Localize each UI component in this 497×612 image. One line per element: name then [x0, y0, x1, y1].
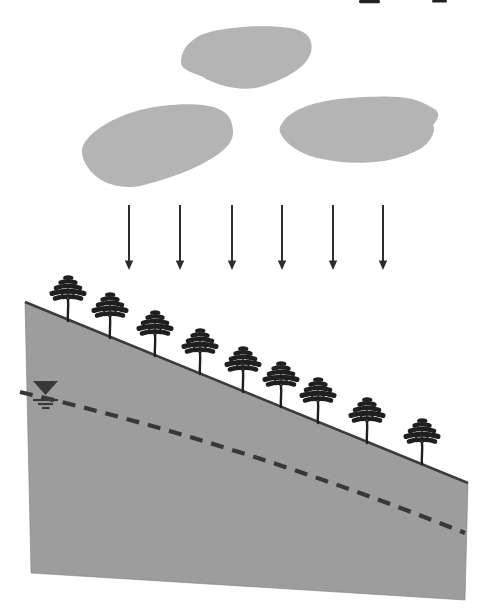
- rain-arrows-layer: [125, 205, 387, 270]
- tree-icon: [406, 420, 438, 464]
- hillslope-layer: [25, 302, 468, 600]
- rain-arrow: [329, 205, 337, 270]
- rain-arrow: [176, 205, 184, 270]
- rain-arrow-head: [278, 261, 286, 271]
- rain-arrow: [228, 205, 236, 270]
- cutoff-text-mark: [432, 0, 447, 3]
- hillslope-body: [25, 302, 468, 600]
- rain-arrow-head: [176, 261, 184, 271]
- rain-arrow-head: [329, 261, 337, 271]
- figure-canvas: Schematic diagram: rain falling from thr…: [0, 0, 497, 612]
- rain-arrow-head: [125, 261, 133, 271]
- rain-arrow: [278, 205, 286, 270]
- cutoff-text-mark: [359, 0, 380, 3]
- tree-icon: [184, 330, 216, 374]
- rain-arrow-head: [379, 261, 387, 271]
- rain-arrow-head: [228, 261, 236, 271]
- cloud-top: [181, 26, 312, 89]
- rain-arrow: [379, 205, 387, 270]
- tree-icon: [265, 363, 297, 407]
- cloud-right: [280, 96, 438, 162]
- hillslope-rainfall-diagram: Schematic diagram: rain falling from thr…: [0, 0, 497, 612]
- clouds-layer: [82, 26, 438, 187]
- cloud-left: [82, 104, 233, 187]
- cutoff-text-marks-layer: [359, 0, 447, 3]
- rain-arrow: [125, 205, 133, 270]
